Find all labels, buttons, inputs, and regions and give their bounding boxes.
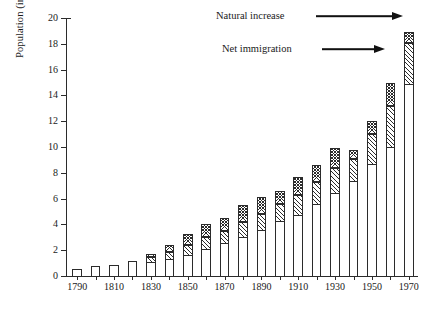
- segment-natural-increase-hatch: [275, 204, 285, 222]
- x-tick: [298, 276, 299, 280]
- bar-1900: [275, 191, 285, 276]
- segment-net-immigration: [367, 121, 377, 134]
- bar-1940: [349, 150, 359, 276]
- y-tick: [61, 147, 67, 148]
- annotation-natural-increase: Natural increase: [216, 11, 285, 22]
- y-tick-label: 6: [53, 194, 58, 204]
- segment-natural-increase: [109, 265, 119, 276]
- segment-net-immigration: [165, 245, 175, 251]
- x-tick-label: 1930: [325, 282, 345, 292]
- bar-1920: [312, 165, 322, 276]
- segment-net-immigration: [404, 32, 414, 42]
- segment-net-immigration: [386, 83, 396, 106]
- y-tick-label: 18: [48, 39, 58, 49]
- segment-net-immigration: [146, 254, 156, 257]
- segment-natural-increase-hatch: [220, 231, 230, 245]
- x-tick-label: 1890: [251, 282, 271, 292]
- bar-1910: [293, 177, 303, 276]
- x-tick-label: 1870: [215, 282, 235, 292]
- segment-net-immigration: [201, 224, 211, 237]
- x-tick: [96, 276, 97, 280]
- segment-net-immigration: [312, 165, 322, 182]
- x-tick: [317, 276, 318, 280]
- x-tick-label: 1850: [178, 282, 198, 292]
- segment-natural-increase-hatch: [238, 222, 248, 238]
- segment-natural-increase-hatch: [349, 159, 359, 182]
- x-tick-label: 1790: [67, 282, 87, 292]
- segment-natural-increase-hatch: [146, 257, 156, 263]
- bar-1950: [367, 121, 377, 276]
- bar-1820: [128, 261, 138, 276]
- x-tick: [243, 276, 244, 280]
- x-tick: [188, 276, 189, 280]
- x-tick: [206, 276, 207, 280]
- x-tick: [169, 276, 170, 280]
- y-tick-label: 12: [48, 116, 58, 126]
- y-tick-label: 14: [48, 90, 58, 100]
- segment-natural-increase-hatch: [293, 195, 303, 216]
- segment-net-immigration: [293, 177, 303, 195]
- x-tick-label: 1910: [288, 282, 308, 292]
- y-tick: [61, 18, 67, 19]
- x-tick-label: 1830: [141, 282, 161, 292]
- bar-1790: [72, 269, 82, 276]
- bar-1960: [386, 83, 396, 277]
- y-tick: [61, 276, 67, 277]
- segment-net-immigration: [220, 218, 230, 231]
- y-tick: [61, 173, 67, 174]
- x-tick: [280, 276, 281, 280]
- segment-natural-increase-hatch: [312, 182, 322, 206]
- segment-natural-increase: [128, 261, 138, 276]
- segment-natural-increase-hatch: [330, 168, 340, 194]
- x-tick: [261, 276, 262, 280]
- x-tick: [409, 276, 410, 280]
- bar-1810: [109, 265, 119, 276]
- x-tick: [372, 276, 373, 280]
- x-tick: [354, 276, 355, 280]
- segment-net-immigration: [183, 234, 193, 245]
- y-tick-label: 8: [53, 168, 58, 178]
- segment-natural-increase: [72, 269, 82, 276]
- segment-natural-increase-hatch: [404, 43, 414, 85]
- x-tick: [335, 276, 336, 280]
- bar-1970: [404, 32, 414, 276]
- segment-natural-increase-hatch: [165, 252, 175, 260]
- segment-natural-increase-hatch: [367, 134, 377, 165]
- bar-1880: [238, 205, 248, 276]
- x-tick: [132, 276, 133, 280]
- y-tick-label: 10: [48, 142, 58, 152]
- y-tick-label: 20: [48, 13, 58, 23]
- segment-net-immigration: [275, 191, 285, 204]
- y-tick: [61, 250, 67, 251]
- y-tick: [61, 70, 67, 71]
- bar-1860: [201, 224, 211, 276]
- segment-natural-increase: [91, 266, 101, 276]
- x-axis-line: [66, 276, 418, 277]
- x-tick: [390, 276, 391, 280]
- y-tick: [61, 121, 67, 122]
- x-tick: [151, 276, 152, 280]
- x-tick: [77, 276, 78, 280]
- bar-1840: [165, 245, 175, 276]
- y-tick: [61, 199, 67, 200]
- annotation-net-immigration: Net immigration: [222, 44, 292, 55]
- bar-1830: [146, 254, 156, 276]
- y-tick: [61, 44, 67, 45]
- segment-natural-increase-hatch: [183, 245, 193, 256]
- y-tick-label: 2: [53, 245, 58, 255]
- bar-1850: [183, 234, 193, 276]
- segment-natural-increase-hatch: [257, 214, 267, 231]
- x-tick: [114, 276, 115, 280]
- bar-1930: [330, 148, 340, 276]
- x-tick: [225, 276, 226, 280]
- segment-natural-increase-hatch: [201, 237, 211, 250]
- bar-1800: [91, 266, 101, 276]
- segment-net-immigration: [330, 148, 340, 167]
- x-tick-label: 1950: [362, 282, 382, 292]
- bar-1870: [220, 218, 230, 276]
- y-tick: [61, 95, 67, 96]
- population-bar-chart: Population (in millions) 024681012141618…: [0, 0, 425, 315]
- segment-net-immigration: [349, 150, 359, 159]
- segment-net-immigration: [238, 205, 248, 222]
- segment-natural-increase-hatch: [386, 106, 396, 149]
